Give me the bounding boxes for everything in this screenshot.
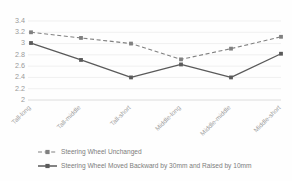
line-chart: 22.22.42.62.833.23.4 Tall-longTall-middl… xyxy=(0,0,292,181)
legend-marker-0 xyxy=(45,150,49,154)
legend-marker-1 xyxy=(45,164,49,168)
chart-legend: Steering Wheel UnchangedSteering Wheel M… xyxy=(38,148,252,170)
data-point-marker xyxy=(229,47,233,51)
data-point-marker xyxy=(129,42,133,46)
x-axis-tick-label: Middle-long xyxy=(153,103,182,132)
data-point-marker xyxy=(79,58,83,62)
data-point-marker xyxy=(29,30,33,34)
data-point-marker xyxy=(129,76,133,80)
y-axis-tick-label: 2.4 xyxy=(15,72,25,81)
data-point-marker xyxy=(29,41,33,45)
y-axis-tick-label: 2 xyxy=(21,95,25,104)
x-axis-tick-label: Tall-long xyxy=(10,103,33,126)
y-axis-tick-label: 2.2 xyxy=(15,84,25,93)
x-axis-tick-label: Middle-middle xyxy=(199,103,232,136)
legend-label-0: Steering Wheel Unchanged xyxy=(61,148,142,156)
y-axis-tick-labels: 22.22.42.62.833.23.4 xyxy=(15,16,25,104)
y-axis-tick-label: 3.4 xyxy=(15,16,25,25)
series-line-1 xyxy=(31,43,281,77)
chart-gridlines xyxy=(28,21,281,100)
x-axis-tick-label: Tall-short xyxy=(108,104,131,127)
data-point-marker xyxy=(279,35,283,39)
y-axis-tick-label: 3 xyxy=(21,38,25,47)
y-axis-tick-label: 2.8 xyxy=(15,50,25,59)
data-point-marker xyxy=(79,36,83,40)
chart-plot-area: 22.22.42.62.833.23.4 Tall-longTall-middl… xyxy=(0,0,292,181)
y-axis-tick-label: 3.2 xyxy=(15,27,25,36)
data-point-marker xyxy=(279,52,283,56)
x-axis-tick-label: Middle-short xyxy=(252,104,282,134)
y-axis-tick-label: 2.6 xyxy=(15,61,25,70)
data-point-marker xyxy=(179,63,183,67)
x-axis-tick-labels: Tall-longTall-middleTall-shortMiddle-lon… xyxy=(10,103,282,136)
x-axis-tick-label: Tall-middle xyxy=(55,103,82,130)
data-point-marker xyxy=(179,57,183,61)
data-point-marker xyxy=(229,76,233,80)
legend-label-1: Steering Wheel Moved Backward by 30mm an… xyxy=(61,162,252,170)
chart-canvas: 22.22.42.62.833.23.4 Tall-longTall-middl… xyxy=(0,0,292,181)
